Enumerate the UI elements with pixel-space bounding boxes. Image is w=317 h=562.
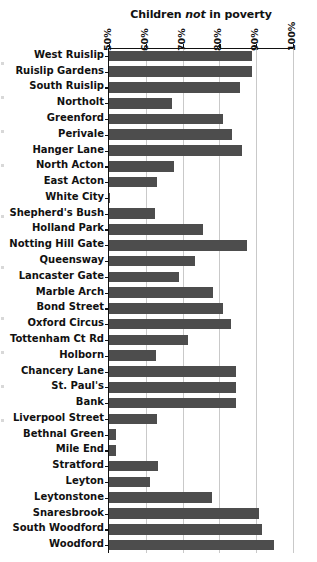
bar[interactable]: [109, 114, 223, 125]
bar[interactable]: [109, 492, 212, 503]
page-edge-speckle: [1, 266, 4, 269]
bar-row: South Ruislip: [109, 80, 293, 96]
y-tick-label: Queensway: [0, 254, 104, 265]
bar-row: Chancery Lane: [109, 364, 293, 380]
bar-row: Tottenham Ct Rd: [109, 332, 293, 348]
bar-row: Greenford: [109, 111, 293, 127]
page-edge-speckle: [1, 419, 4, 422]
bar[interactable]: [109, 272, 179, 283]
bar-row: White City: [109, 190, 293, 206]
y-tick-mark: [105, 545, 109, 546]
bar[interactable]: [109, 414, 157, 425]
bar[interactable]: [109, 98, 172, 109]
page-edge-speckle: [1, 351, 4, 354]
chart-title-prefix: Children: [130, 8, 185, 21]
page-edge-speckle: [1, 215, 4, 218]
bar[interactable]: [109, 161, 174, 172]
y-tick-label: Greenford: [0, 112, 104, 123]
y-tick-label: Holborn: [0, 349, 104, 360]
bar[interactable]: [109, 382, 236, 393]
y-tick-mark: [105, 277, 109, 278]
y-tick-mark: [105, 261, 109, 262]
bar-row: North Acton: [109, 158, 293, 174]
y-tick-mark: [105, 182, 109, 183]
bar[interactable]: [109, 66, 252, 77]
y-tick-mark: [105, 356, 109, 357]
chart-container: Children not in poverty 50%60%70%80%90%1…: [0, 0, 317, 562]
bar-row: Leytonstone: [109, 490, 293, 506]
y-tick-label: Hanger Lane: [0, 144, 104, 155]
bar[interactable]: [109, 224, 203, 235]
y-tick-label: Leytonstone: [0, 491, 104, 502]
y-tick-mark: [105, 135, 109, 136]
bar-row: South Woodford: [109, 521, 293, 537]
bar[interactable]: [109, 82, 240, 93]
bar-row: Ruislip Gardens: [109, 64, 293, 80]
chart-title: Children not in poverty: [109, 8, 293, 21]
y-tick-label: Bank: [0, 396, 104, 407]
bar[interactable]: [109, 51, 252, 62]
bar[interactable]: [109, 477, 150, 488]
bar[interactable]: [109, 319, 231, 330]
plot-area: 50%60%70%80%90%100%West RuislipRuislip G…: [109, 48, 293, 553]
y-tick-mark: [105, 403, 109, 404]
y-tick-label: Woodford: [0, 538, 104, 549]
bar[interactable]: [109, 335, 188, 346]
bar[interactable]: [109, 256, 195, 267]
bar[interactable]: [109, 145, 242, 156]
bar-row: Liverpool Street: [109, 411, 293, 427]
y-tick-label: Oxford Circus: [0, 317, 104, 328]
y-tick-mark: [105, 56, 109, 57]
y-tick-label: West Ruislip: [0, 49, 104, 60]
y-tick-label: Notting Hill Gate: [0, 238, 104, 249]
bar[interactable]: [109, 193, 110, 204]
bar[interactable]: [109, 524, 262, 535]
bar[interactable]: [109, 540, 274, 551]
y-tick-mark: [105, 293, 109, 294]
y-tick-label: Ruislip Gardens: [0, 65, 104, 76]
bar[interactable]: [109, 398, 236, 409]
bar-row: Northolt: [109, 95, 293, 111]
y-tick-mark: [105, 466, 109, 467]
y-tick-label: Shepherd's Bush: [0, 207, 104, 218]
y-tick-mark: [105, 214, 109, 215]
y-tick-mark: [105, 450, 109, 451]
y-tick-label: Mile End: [0, 443, 104, 454]
chart-title-emphasis: not: [185, 8, 205, 21]
bar[interactable]: [109, 366, 236, 377]
bar-row: Stratford: [109, 458, 293, 474]
y-tick-label: Tottenham Ct Rd: [0, 333, 104, 344]
bar[interactable]: [109, 429, 116, 440]
y-tick-mark: [105, 308, 109, 309]
bar[interactable]: [109, 303, 223, 314]
bar-row: Oxford Circus: [109, 316, 293, 332]
bar-row: Lancaster Gate: [109, 269, 293, 285]
bar-row: Perivale: [109, 127, 293, 143]
bar-row: Woodford: [109, 537, 293, 553]
bar[interactable]: [109, 129, 232, 140]
page-edge-speckle: [1, 62, 4, 65]
bar-row: Bond Street: [109, 301, 293, 317]
bar-row: Mile End: [109, 443, 293, 459]
chart-title-suffix: in poverty: [206, 8, 272, 21]
bar[interactable]: [109, 508, 259, 519]
bar[interactable]: [109, 208, 155, 219]
y-tick-mark: [105, 72, 109, 73]
bar-row: East Acton: [109, 174, 293, 190]
y-tick-label: South Woodford: [0, 522, 104, 533]
bar[interactable]: [109, 177, 157, 188]
bar-row: Leyton: [109, 474, 293, 490]
y-tick-label: Liverpool Street: [0, 412, 104, 423]
bar[interactable]: [109, 240, 247, 251]
y-tick-mark: [105, 151, 109, 152]
bar[interactable]: [109, 445, 116, 456]
y-tick-mark: [105, 482, 109, 483]
bar[interactable]: [109, 350, 156, 361]
y-tick-mark: [105, 340, 109, 341]
bar-row: Shepherd's Bush: [109, 206, 293, 222]
y-tick-label: East Acton: [0, 175, 104, 186]
bar-row: Bank: [109, 395, 293, 411]
bar[interactable]: [109, 287, 213, 298]
bar[interactable]: [109, 461, 158, 472]
y-tick-label: South Ruislip: [0, 80, 104, 91]
